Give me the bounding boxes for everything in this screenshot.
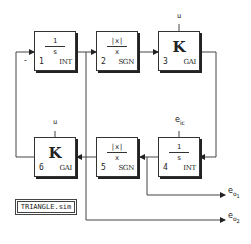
numerator: |x| xyxy=(97,37,137,45)
block-type: SGN xyxy=(118,164,134,172)
block-5-sign[interactable]: |x| x 5 SGN xyxy=(96,137,138,177)
denominator: s xyxy=(159,154,199,162)
gain-symbol: K xyxy=(35,144,75,162)
block-number: 3 xyxy=(163,57,168,66)
block-6-gain[interactable]: K 6 GAI xyxy=(34,137,76,177)
param-label-u: u xyxy=(53,118,57,126)
fraction-bar xyxy=(107,46,127,47)
block-number: 2 xyxy=(101,57,106,66)
output-label-eo2: eo2 xyxy=(228,211,240,224)
block-number: 6 xyxy=(39,163,44,172)
block-number: 1 xyxy=(39,57,44,66)
block-type: GAI xyxy=(183,58,196,66)
block-type: GAI xyxy=(59,164,72,172)
minus-sign: - xyxy=(23,56,28,65)
numerator: 1 xyxy=(35,37,75,45)
transfer-function: |x| x xyxy=(97,143,137,162)
denominator: x xyxy=(97,154,137,162)
numerator: 1 xyxy=(159,143,199,151)
wire-6-to-1 xyxy=(16,52,34,157)
param-label-u: u xyxy=(177,12,181,20)
block-type: INT xyxy=(183,164,196,172)
transfer-function: 1 s xyxy=(35,37,75,56)
numerator: |x| xyxy=(97,143,137,151)
denominator: x xyxy=(97,48,137,56)
output-label-eo1: eo1 xyxy=(228,186,240,199)
fraction-bar xyxy=(107,152,127,153)
filename-label: TRIANGLE.sim xyxy=(17,201,75,213)
wire-3-to-4 xyxy=(200,52,216,157)
fraction-bar xyxy=(169,152,189,153)
block-type: INT xyxy=(59,58,72,66)
transfer-function: |x| x xyxy=(97,37,137,56)
block-4-integrator[interactable]: 1 s 4 INT xyxy=(158,137,200,177)
signal-label-eic: eic xyxy=(175,115,185,126)
filename-box: TRIANGLE.sim xyxy=(15,199,77,215)
block-number: 4 xyxy=(163,163,168,172)
block-number: 5 xyxy=(101,163,106,172)
transfer-function: 1 s xyxy=(159,143,199,162)
fraction-bar xyxy=(45,46,65,47)
denominator: s xyxy=(35,48,75,56)
gain-symbol: K xyxy=(159,38,199,56)
block-3-gain[interactable]: K 3 GAI xyxy=(158,31,200,71)
block-2-sign[interactable]: |x| x 2 SGN xyxy=(96,31,138,71)
block-type: SGN xyxy=(118,58,134,66)
block-1-integrator[interactable]: 1 s 1 INT xyxy=(34,31,76,71)
